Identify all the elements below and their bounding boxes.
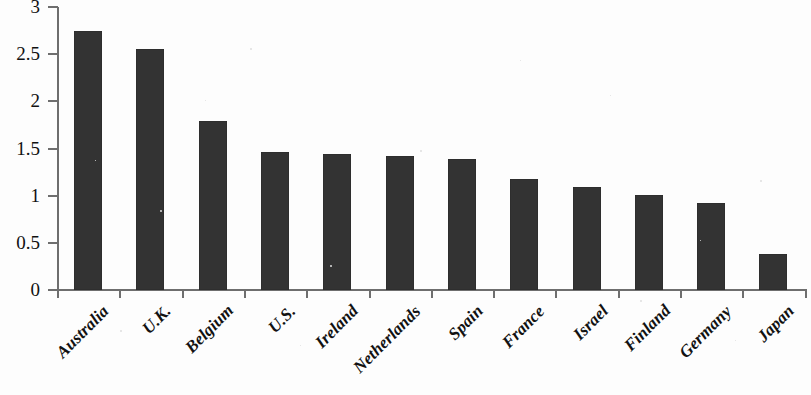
- y-axis-tick: [48, 53, 58, 55]
- y-axis-tick-label: 3: [0, 0, 40, 16]
- bar: [635, 195, 663, 290]
- x-axis-tick: [742, 289, 744, 298]
- bar: [74, 31, 102, 290]
- bar: [261, 152, 289, 290]
- y-axis-tick-label: 0: [0, 280, 40, 299]
- bar: [697, 203, 725, 290]
- y-axis-tick-label: 1.5: [0, 139, 40, 158]
- x-axis-tick: [57, 289, 59, 298]
- scan-speck: [520, 60, 521, 61]
- bar: [573, 187, 601, 290]
- scan-speck: [420, 150, 422, 152]
- x-axis-tick: [680, 289, 682, 298]
- x-axis-label: Ireland: [312, 302, 361, 351]
- bar: [448, 159, 476, 290]
- x-axis-tick: [306, 289, 308, 298]
- x-axis-tick: [555, 289, 557, 298]
- bar-chart: 00.511.522.53 AustraliaU.K.BelgiumU.S.Ir…: [0, 0, 811, 395]
- scan-speck: [120, 330, 122, 332]
- x-axis-tick: [119, 289, 121, 298]
- x-axis-label: U.S.: [265, 302, 299, 336]
- y-axis-tick-label: 0.5: [0, 233, 40, 252]
- x-axis-tick: [182, 289, 184, 298]
- x-axis-label: U.K.: [139, 302, 174, 337]
- bar: [386, 156, 414, 290]
- scan-speck: [300, 345, 301, 346]
- y-axis-tick: [48, 195, 58, 197]
- scan-speck: [760, 180, 762, 182]
- scan-speck: [735, 340, 736, 341]
- y-axis-tick: [48, 6, 58, 8]
- scan-speck: [250, 48, 252, 50]
- y-axis-tick-label: 1: [0, 186, 40, 205]
- x-axis-label: Australia: [53, 302, 112, 361]
- x-axis-label: Japan: [754, 302, 797, 345]
- x-axis-label: Germany: [676, 302, 735, 361]
- x-axis-tick: [244, 289, 246, 298]
- x-axis-tick: [805, 289, 807, 298]
- x-axis-label: Spain: [445, 302, 486, 343]
- x-axis-label: Israel: [570, 302, 611, 343]
- x-axis-label: Belgium: [182, 302, 237, 357]
- x-axis-tick: [369, 289, 371, 298]
- x-axis-tick: [493, 289, 495, 298]
- y-axis-tick: [48, 242, 58, 244]
- scan-speck: [610, 95, 611, 96]
- bar: [136, 49, 164, 290]
- x-axis-tick: [431, 289, 433, 298]
- scan-speck: [640, 300, 642, 302]
- x-axis-label: France: [499, 302, 548, 351]
- x-axis-tick: [618, 289, 620, 298]
- y-axis-tick-label: 2: [0, 91, 40, 110]
- y-axis-tick: [48, 100, 58, 102]
- y-axis-tick: [48, 148, 58, 150]
- x-axis-label: Finland: [621, 302, 674, 355]
- bar: [759, 254, 787, 290]
- bar: [199, 121, 227, 290]
- bar: [510, 179, 538, 290]
- scan-speck: [205, 100, 206, 101]
- bar: [323, 154, 351, 290]
- y-axis-tick-label: 2.5: [0, 44, 40, 63]
